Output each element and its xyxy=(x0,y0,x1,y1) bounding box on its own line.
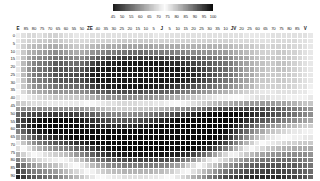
x-axis-tick-label: 15 xyxy=(136,24,140,33)
heatmap-cell xyxy=(308,175,313,181)
x-axis-tick-label: 25 xyxy=(247,24,251,33)
y-axis-tick-label: 15 xyxy=(11,56,15,62)
colorbar-tick-label: 80 xyxy=(174,12,178,21)
y-axis-tick-label: 10 xyxy=(11,49,15,55)
x-axis-tick-label: 5 xyxy=(153,24,155,33)
colorbar-tick-label: 45 xyxy=(111,12,115,21)
x-axis-tick-label: E xyxy=(17,24,20,33)
x-axis-tick-label: ZE xyxy=(87,24,93,33)
colorbar-tick-label: 65 xyxy=(147,12,151,21)
x-axis-tick-label: 40 xyxy=(96,24,100,33)
colorbar-tick-label: 70 xyxy=(156,12,160,21)
y-axis-tick-label: 30 xyxy=(11,80,15,86)
x-axis-tick-label: JV xyxy=(231,24,236,33)
x-axis-tick-label: J xyxy=(160,24,162,33)
x-axis-tick-label: 30 xyxy=(207,24,211,33)
x-axis-tick-label: 85 xyxy=(24,24,28,33)
heatmap-grid xyxy=(16,33,314,180)
y-axis-tick-label: 45 xyxy=(11,103,15,109)
x-axis-tick-label: 20 xyxy=(191,24,195,33)
x-axis-tick-label: 5 xyxy=(169,24,171,33)
y-axis-tick-label: 85 xyxy=(11,165,15,171)
x-axis-tick-label: 65 xyxy=(263,24,267,33)
colorbar-gradient-strip xyxy=(113,4,213,11)
y-axis-tick-label: 65 xyxy=(11,134,15,140)
x-axis-tick-label: 20 xyxy=(128,24,132,33)
y-axis-tick-label: 20 xyxy=(11,64,15,70)
y-axis-tick-label: 40 xyxy=(11,95,15,101)
x-axis-tick-label: V xyxy=(304,24,307,33)
x-axis-tick-label: 70 xyxy=(271,24,275,33)
plot-area xyxy=(16,33,314,180)
x-axis-tick-label: 60 xyxy=(255,24,259,33)
x-axis-tick-label: 10 xyxy=(143,24,147,33)
x-axis-tick-label: 50 xyxy=(80,24,84,33)
x-axis-tick-label: 30 xyxy=(112,24,116,33)
y-axis-tick-label: 75 xyxy=(11,150,15,156)
y-axis-tick-label: 35 xyxy=(11,87,15,93)
x-axis-tick-label: 65 xyxy=(56,24,60,33)
colorbar-tick-label: 100 xyxy=(210,12,217,21)
x-axis-tick-label: 75 xyxy=(279,24,283,33)
colorbar: 4550556065707580859095100 xyxy=(113,4,213,21)
x-axis-tick-label: 70 xyxy=(48,24,52,33)
y-axis-tick-label: 80 xyxy=(11,157,15,163)
colorbar-tick-label: 75 xyxy=(165,12,169,21)
colorbar-tick-label: 85 xyxy=(184,12,188,21)
x-axis-tick-label: 80 xyxy=(32,24,36,33)
x-axis-tick-label: 25 xyxy=(199,24,203,33)
colorbar-segment xyxy=(212,4,213,11)
x-axis-tick-label: 75 xyxy=(40,24,44,33)
colorbar-tick-label: 60 xyxy=(138,12,142,21)
colorbar-tick-label: 50 xyxy=(120,12,124,21)
heatmap-figure: 4550556065707580859095100 E8580757065605… xyxy=(0,0,320,181)
x-axis-tick-label: 60 xyxy=(64,24,68,33)
y-axis-tick-label: 25 xyxy=(11,72,15,78)
colorbar-tick-label: 90 xyxy=(193,12,197,21)
y-axis-tick-label: 5 xyxy=(13,41,15,47)
colorbar-tick-label: 95 xyxy=(202,12,206,21)
y-axis-tick-label: 60 xyxy=(11,126,15,132)
colorbar-tick-label: 55 xyxy=(129,12,133,21)
y-axis-tick-label: 90 xyxy=(11,173,15,179)
y-axis-tick-label: 0 xyxy=(13,33,15,39)
x-axis-tick-label: 15 xyxy=(183,24,187,33)
x-axis-tick-label: 35 xyxy=(215,24,219,33)
y-axis-tick-label: 50 xyxy=(11,111,15,117)
x-axis-tick-label: 80 xyxy=(287,24,291,33)
colorbar-tick-labels: 4550556065707580859095100 xyxy=(113,12,213,21)
x-axis-tick-label: 55 xyxy=(72,24,76,33)
x-axis-tick-label: 85 xyxy=(295,24,299,33)
y-axis-tick-label: 70 xyxy=(11,142,15,148)
x-axis-tick-label: 25 xyxy=(120,24,124,33)
x-axis-tick-label: 10 xyxy=(223,24,227,33)
x-axis-tick-label: 10 xyxy=(175,24,179,33)
x-axis-tick-label: 35 xyxy=(104,24,108,33)
x-axis-tick-labels: E8580757065605550ZE403530252015105J51015… xyxy=(16,24,316,33)
heatmap-row xyxy=(16,175,314,181)
x-axis-tick-label: 20 xyxy=(239,24,243,33)
y-axis-tick-label: 55 xyxy=(11,119,15,125)
